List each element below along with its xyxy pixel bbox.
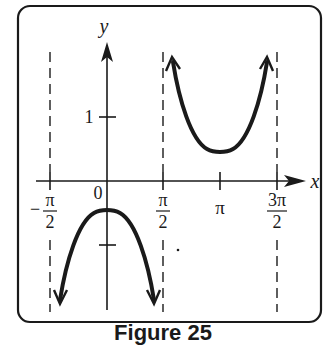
y-tick-label-1: 1 bbox=[85, 107, 94, 127]
x-tick-neg-pi-over-2-den: 2 bbox=[46, 212, 55, 232]
origin-label: 0 bbox=[94, 183, 103, 203]
x-tick-pi: π bbox=[215, 197, 225, 218]
x-tick-pi-over-2-num: π bbox=[158, 190, 167, 210]
curve-branch-right bbox=[173, 62, 267, 152]
x-tick-3pi-over-2-den: 2 bbox=[273, 212, 282, 232]
x-axis-label: x bbox=[310, 170, 320, 192]
x-tick-3pi-over-2-num: 3π bbox=[268, 190, 286, 210]
y-axis-label: y bbox=[98, 15, 109, 38]
speck bbox=[177, 249, 180, 252]
x-tick-pi-over-2-den: 2 bbox=[159, 212, 168, 232]
x-tick-neg-pi-over-2-num: π bbox=[45, 190, 54, 210]
figure-caption: Figure 25 bbox=[0, 322, 326, 344]
x-tick-neg-sign: − bbox=[30, 199, 40, 219]
